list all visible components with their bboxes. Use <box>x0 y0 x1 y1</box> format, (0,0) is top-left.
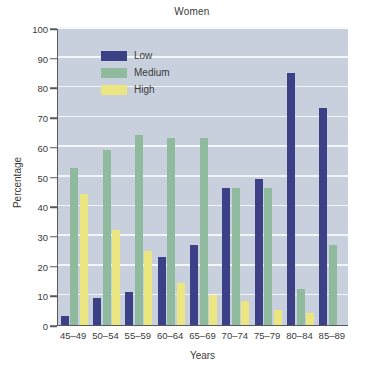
y-tick-mark <box>50 58 57 60</box>
bar-high <box>112 230 120 325</box>
bar-low <box>61 316 69 325</box>
bar-group <box>287 29 314 325</box>
y-tick-mark <box>50 206 57 208</box>
legend-label: Low <box>134 49 152 63</box>
x-tick-label: 80–84 <box>286 330 312 341</box>
legend-swatch-low <box>101 51 127 61</box>
bar-high <box>274 310 282 325</box>
bar-low <box>255 179 263 325</box>
y-tick-mark <box>50 325 57 327</box>
gridline <box>58 27 348 29</box>
x-tick-label: 65–69 <box>189 330 215 341</box>
bar-low <box>287 73 295 325</box>
bar-group <box>61 29 88 325</box>
y-tick-label: 70 <box>37 113 48 124</box>
x-tick-label: 85–89 <box>319 330 345 341</box>
y-tick-mark <box>50 147 57 149</box>
bar-group <box>190 29 217 325</box>
plot-area: LowMediumHigh <box>57 29 348 326</box>
bar-high <box>306 313 314 325</box>
bar-low <box>93 298 101 325</box>
y-tick-label: 100 <box>32 24 48 35</box>
bar-medium <box>264 188 272 325</box>
chart-title: Women <box>0 6 384 17</box>
bar-medium <box>167 138 175 325</box>
y-axis: 0102030405060708090100 Percentage <box>0 29 57 326</box>
y-tick-label: 40 <box>37 202 48 213</box>
x-tick-label: 70–74 <box>222 330 248 341</box>
bar-medium <box>200 138 208 325</box>
y-tick-label: 80 <box>37 83 48 94</box>
legend-label: High <box>134 83 155 97</box>
y-tick-label: 10 <box>37 291 48 302</box>
y-tick-mark <box>50 236 57 238</box>
y-tick-label: 30 <box>37 231 48 242</box>
y-tick-label: 90 <box>37 53 48 64</box>
bar-high <box>144 251 152 325</box>
legend-label: Medium <box>134 66 170 80</box>
legend-swatch-medium <box>101 68 127 78</box>
y-tick-mark <box>50 117 57 119</box>
bar-medium <box>70 168 78 325</box>
x-axis-label: Years <box>57 350 348 361</box>
bar-medium <box>103 150 111 325</box>
bar-high <box>209 295 217 325</box>
bar-high <box>80 194 88 325</box>
y-axis-label: Percentage <box>12 73 23 293</box>
x-tick-label: 75–79 <box>254 330 280 341</box>
y-tick-mark <box>50 177 57 179</box>
y-tick-mark <box>50 28 57 30</box>
bar-medium <box>232 188 240 325</box>
y-tick-label: 50 <box>37 172 48 183</box>
x-tick-label: 55–59 <box>125 330 151 341</box>
bar-low <box>222 188 230 325</box>
bar-low <box>125 292 133 325</box>
y-tick-mark <box>50 266 57 268</box>
bar-low <box>190 245 198 325</box>
legend-swatch-high <box>101 85 127 95</box>
bar-low <box>158 257 166 325</box>
x-tick-label: 45–49 <box>60 330 86 341</box>
y-tick-mark <box>50 296 57 298</box>
bar-low <box>319 108 327 325</box>
x-tick-label: 50–54 <box>92 330 118 341</box>
x-tick-list: 45–4950–5455–5960–6465–6970–7475–7980–84… <box>57 330 348 346</box>
y-tick-label: 60 <box>37 142 48 153</box>
bar-group <box>319 29 346 325</box>
y-tick-mark <box>50 88 57 90</box>
bar-group <box>255 29 282 325</box>
y-tick-label: 20 <box>37 261 48 272</box>
bar-chart: Women 0102030405060708090100 Percentage … <box>0 0 384 372</box>
y-tick-label: 0 <box>43 321 48 332</box>
bar-medium <box>329 245 337 325</box>
bar-high <box>241 301 249 325</box>
bar-medium <box>297 289 305 325</box>
bar-group <box>222 29 249 325</box>
bar-medium <box>135 135 143 325</box>
x-tick-label: 60–64 <box>157 330 183 341</box>
bar-high <box>177 283 185 325</box>
